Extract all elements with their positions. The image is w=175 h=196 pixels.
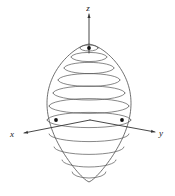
level-curve <box>71 57 107 62</box>
level-curve <box>53 86 125 93</box>
surface-diagram: z x y <box>0 0 175 196</box>
top-pole-point <box>87 46 91 50</box>
level-curve <box>54 147 124 154</box>
level-curve <box>58 80 120 86</box>
z-axis-label: z <box>85 3 90 13</box>
y-axis-arrowhead <box>151 130 155 133</box>
x-axis-line <box>24 120 90 133</box>
figure-container: z x y <box>0 0 175 196</box>
level-curve <box>72 172 106 178</box>
level-curve <box>64 62 114 68</box>
level-curve <box>58 74 120 80</box>
level-curve <box>62 160 116 167</box>
ovoid-outline <box>47 44 131 182</box>
z-axis-arrowhead <box>87 14 90 18</box>
x-axis-surface-point <box>54 118 58 122</box>
level-curve <box>47 120 131 128</box>
y-axis-surface-point <box>120 118 124 122</box>
y-axis-label: y <box>158 128 163 138</box>
level-curve <box>49 134 129 142</box>
level-curve <box>64 68 114 74</box>
x-axis-label: x <box>9 129 14 139</box>
